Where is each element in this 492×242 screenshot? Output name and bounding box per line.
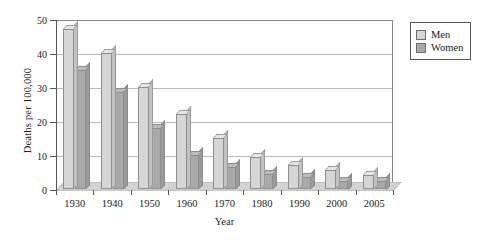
x-tick (356, 190, 357, 195)
x-tick (93, 190, 94, 195)
x-tick-label: 1990 (289, 198, 310, 209)
y-tick-label: 10 (37, 151, 47, 162)
bar-front-face (250, 157, 261, 189)
bar-men-2005 (363, 175, 374, 189)
x-tick (168, 190, 169, 195)
bar-side-face (187, 106, 191, 189)
bar-side-face (161, 120, 165, 189)
bar-side-face (348, 173, 352, 190)
x-tick (281, 190, 282, 195)
y-tick-label: 40 (37, 49, 47, 60)
y-tick-label: 0 (42, 185, 47, 196)
x-tick-label: 1940 (102, 198, 123, 209)
x-tick-label: 1980 (251, 198, 272, 209)
legend-item-men: Men (416, 29, 463, 40)
bar-front-face (325, 170, 336, 189)
bar-side-face (149, 79, 153, 189)
bar-side-face (112, 45, 116, 189)
legend-label-men: Men (431, 29, 450, 40)
x-tick (243, 190, 244, 195)
bar-men-1990 (288, 165, 299, 189)
x-tick (206, 190, 207, 195)
bar-front-face (213, 138, 224, 189)
bar-men-1970 (213, 138, 224, 189)
legend-item-women: Women (416, 42, 463, 53)
x-tick-label: 1950 (139, 198, 160, 209)
bar-side-face (224, 130, 228, 189)
y-tick-label: 20 (37, 117, 47, 128)
x-tick-label: 1970 (214, 198, 235, 209)
x-tick (318, 190, 319, 195)
bar-men-1940 (101, 53, 112, 189)
chart-legend: Men Women (410, 22, 471, 60)
y-tick-label: 30 (37, 83, 47, 94)
y-axis-title: Deaths per 100,000 (22, 36, 33, 186)
bar-men-1960 (176, 114, 187, 189)
x-tick (393, 190, 394, 195)
x-tick-label: 2005 (364, 198, 385, 209)
bar-men-1950 (138, 87, 149, 189)
x-tick (131, 190, 132, 195)
bar-series-group (56, 20, 393, 190)
x-tick-label: 1930 (64, 198, 85, 209)
bar-front-face (288, 165, 299, 189)
bar-front-face (138, 87, 149, 189)
bar-men-2000 (325, 170, 336, 189)
bar-front-face (363, 175, 374, 189)
legend-swatch-women-icon (416, 43, 426, 53)
bar-chart-figure: Deaths per 100,000 01020304050 193019401… (0, 0, 492, 242)
x-tick (56, 190, 57, 195)
bar-front-face (176, 114, 187, 189)
x-tick-label: 1960 (177, 198, 198, 209)
bar-front-face (101, 53, 112, 189)
legend-label-women: Women (431, 42, 463, 53)
bar-side-face (386, 173, 390, 190)
bar-side-face (74, 21, 78, 189)
legend-swatch-men-icon (416, 30, 426, 40)
bar-men-1980 (250, 157, 261, 189)
x-tick-label: 2000 (326, 198, 347, 209)
plot-area: 01020304050 1930194019501960197019801990… (56, 20, 393, 190)
bar-men-1930 (63, 29, 74, 189)
bar-front-face (63, 29, 74, 189)
bar-side-face (124, 84, 128, 189)
x-axis-title: Year (56, 216, 393, 227)
bar-side-face (86, 62, 90, 189)
y-tick-label: 50 (37, 15, 47, 26)
